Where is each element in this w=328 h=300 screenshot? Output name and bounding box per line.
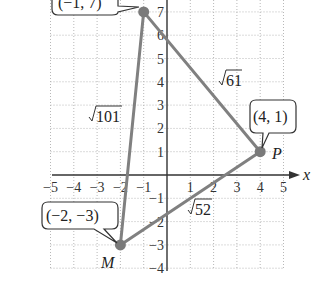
point-label-P: P: [271, 145, 282, 162]
point-top: [138, 6, 149, 17]
length-label-side-M-P: 52: [188, 199, 212, 218]
callout-M-text: (−2, −3): [46, 207, 99, 225]
y-tick-label: −4: [149, 261, 164, 276]
point-P: [255, 146, 266, 157]
x-tick-label: −4: [66, 180, 81, 195]
y-tick-labels: 7654321−1−2−3−4: [149, 5, 164, 276]
y-tick-label: 2: [157, 121, 164, 136]
axes: x: [52, 0, 310, 271]
y-tick-label: 5: [157, 52, 164, 67]
coordinate-plane-figure: x −5−4−3−2−112345 7654321−1−2−3−4 101 61…: [0, 0, 328, 300]
x-axis-label: x: [302, 166, 310, 183]
side-M-top: [120, 12, 143, 245]
radicand-61: 61: [226, 72, 242, 89]
point-label-M: M: [100, 254, 116, 271]
x-tick-label: −5: [43, 180, 58, 195]
radicand-101: 101: [96, 108, 120, 125]
x-tick-labels: −5−4−3−2−112345: [43, 180, 287, 195]
y-tick-label: −3: [149, 238, 164, 253]
y-tick-label: 1: [157, 145, 164, 160]
length-label-side-top-P: 61: [219, 70, 242, 89]
x-tick-label: 3: [233, 180, 240, 195]
y-tick-label: 7: [157, 5, 164, 20]
callout-P-text: (4, 1): [253, 108, 288, 126]
callout-P: (4, 1): [250, 100, 296, 148]
x-tick-label: 4: [257, 180, 264, 195]
y-tick-label: 4: [157, 75, 164, 90]
callout-M: (−2, −3): [42, 202, 118, 243]
radicand-52: 52: [195, 201, 211, 218]
length-label-side-M-top: 101: [89, 106, 122, 125]
point-M: [115, 239, 126, 250]
x-tick-label: 5: [280, 180, 287, 195]
x-tick-label: 1: [187, 180, 194, 195]
x-axis-arrow-icon: [289, 171, 300, 179]
callout-top-text: (−1, 7): [58, 0, 102, 12]
y-tick-label: −1: [149, 191, 164, 206]
y-tick-label: 3: [157, 98, 164, 113]
callout-top: (−1, 7): [52, 0, 139, 15]
x-tick-label: −3: [90, 180, 105, 195]
